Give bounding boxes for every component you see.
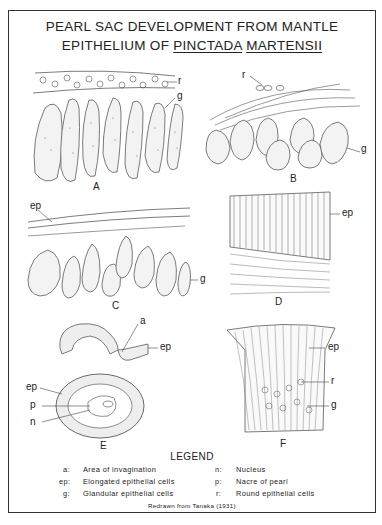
panel-letter-f: F [280,438,286,449]
panel-e: a ep ep p n E [30,318,200,453]
panel-letter-d: D [275,296,282,307]
panel-letter-a: A [93,181,100,192]
label-g: g [177,90,183,101]
figure-title-line1: PEARL SAC DEVELOPMENT FROM MANTLE [8,19,376,34]
label-a: a [140,315,146,326]
legend-key-g: g: [63,489,70,498]
legend-desc-p: Nacre of pearl [236,477,288,486]
title-prefix: EPITHELIUM OF [62,38,173,53]
label-ep: ep [342,207,353,218]
panel-f: ep r g F [225,320,375,455]
label-r: r [331,375,334,386]
legend-key-a: a: [63,465,70,474]
legend-key-n: n: [215,465,222,474]
legend-desc-r: Round epithelial cells [236,489,315,498]
panel-a-drawing [25,68,195,198]
label-ep: ep [160,341,171,352]
legend-key-p: p: [215,477,222,486]
panel-a: r g A [25,68,195,198]
label-p: p [30,399,36,410]
figure-title-line2: EPITHELIUM OF PINCTADA MARTENSII [8,38,376,53]
label-g: g [200,273,206,284]
legend-desc-a: Area of invagination [83,465,156,474]
legend-key-r: r: [216,489,221,498]
label-ep: ep [30,200,41,211]
title-genus: PINCTADA [173,38,242,53]
panel-d: ep D [230,192,370,302]
panel-letter-c: C [112,300,119,311]
panel-c: ep g C [20,200,200,310]
legend-key-ep: ep: [59,477,70,486]
label-r: r [242,69,245,80]
label-g: g [361,143,367,154]
legend-title: LEGEND [8,451,376,462]
legend-desc-n: Nucleus [236,465,266,474]
label-ep: ep [328,341,339,352]
label-r: r [178,75,181,86]
label-g: g [331,399,337,410]
label-ep: ep [26,381,37,392]
label-n: n [30,416,36,427]
panel-e-drawing [30,318,200,453]
panel-b-drawing [200,70,375,190]
panel-c-drawing [20,200,200,310]
legend-desc-ep: Elongated epithelial cells [83,477,175,486]
title-species: MARTENSII [246,38,322,53]
credit-line: Redrawn from Tanaka (1931) [8,502,376,509]
panel-f-drawing [225,320,375,455]
panel-b: r g B [200,70,375,190]
panel-letter-b: B [290,173,297,184]
panel-letter-e: E [100,440,107,451]
legend-desc-g: Glandular epithelial cells [83,489,174,498]
